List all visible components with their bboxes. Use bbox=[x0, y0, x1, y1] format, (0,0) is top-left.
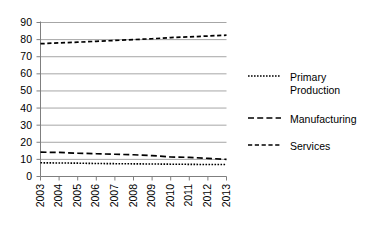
x-tick-label: 2010 bbox=[165, 184, 175, 207]
x-tick-label: 2003 bbox=[35, 184, 45, 207]
y-tick-label: 0 bbox=[10, 171, 32, 181]
x-tick-label: 2007 bbox=[109, 184, 119, 207]
y-tick-label: 40 bbox=[10, 103, 32, 113]
legend-item-label: Primary Production bbox=[290, 71, 340, 96]
y-tick-label: 20 bbox=[10, 137, 32, 147]
x-tick-label: 2005 bbox=[72, 184, 82, 207]
x-tick-label: 2011 bbox=[183, 184, 193, 207]
y-tick-label: 50 bbox=[10, 85, 32, 95]
y-axis-ticks bbox=[37, 23, 41, 177]
series-line-primary-production bbox=[41, 163, 227, 165]
legend-swatch-group bbox=[248, 76, 281, 145]
x-tick-label: 2009 bbox=[146, 184, 156, 207]
y-tick-label: 90 bbox=[10, 17, 32, 27]
data-series-group bbox=[41, 35, 227, 164]
y-tick-label: 30 bbox=[10, 120, 32, 130]
y-tick-label: 70 bbox=[10, 51, 32, 61]
y-tick-label: 10 bbox=[10, 154, 32, 164]
y-tick-label: 80 bbox=[10, 34, 32, 44]
x-tick-label: 2004 bbox=[53, 184, 63, 207]
x-tick-label: 2013 bbox=[221, 184, 231, 207]
y-tick-label: 60 bbox=[10, 68, 32, 78]
x-tick-label: 2012 bbox=[202, 184, 212, 207]
x-tick-label: 2006 bbox=[90, 184, 100, 207]
legend-item-label: Manufacturing bbox=[290, 113, 357, 126]
legend-item-label: Services bbox=[290, 140, 330, 153]
x-tick-label: 2008 bbox=[128, 184, 138, 207]
x-axis-ticks bbox=[41, 177, 227, 181]
series-line-manufacturing bbox=[41, 152, 227, 159]
line-chart: 0102030405060708090 20032004200520062007… bbox=[0, 0, 366, 231]
